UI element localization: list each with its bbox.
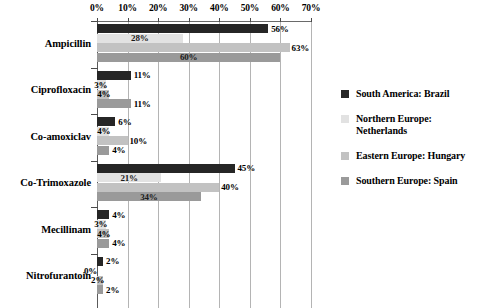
bar-value-label: 45% — [238, 163, 255, 173]
bar-value-label: 56% — [271, 24, 288, 34]
legend-swatch-icon — [341, 177, 349, 185]
legend-label: Northern Europe: Netherlands — [356, 113, 481, 137]
x-tick-label: 40% — [210, 3, 228, 13]
bar-value-label: 21% — [120, 173, 137, 183]
x-tick-label: 20% — [149, 3, 167, 13]
bar — [97, 99, 131, 108]
x-axis-rule — [97, 21, 311, 22]
bar — [97, 146, 109, 155]
bar-value-label: 6% — [118, 117, 131, 127]
bar — [97, 285, 103, 294]
x-tick-label: 60% — [271, 3, 289, 13]
legend-label: South America: Brazil — [356, 88, 449, 100]
bar — [97, 164, 235, 173]
category-label: Co-Trimoxazole — [20, 177, 91, 188]
bar-value-label: 4% — [97, 89, 110, 99]
bar — [97, 136, 128, 145]
category-label: Nitrofurantoin — [26, 270, 91, 281]
legend-swatch-icon — [341, 152, 349, 160]
bar-value-label: 11% — [134, 99, 151, 109]
x-tick-label: 10% — [118, 3, 136, 13]
x-tick-label: 0% — [90, 3, 104, 13]
category-tick — [91, 21, 98, 22]
bar-value-label: 4% — [112, 210, 125, 220]
x-tick-label: 30% — [180, 3, 198, 13]
bar — [97, 183, 219, 192]
bar — [97, 257, 103, 266]
bar-value-label: 4% — [112, 145, 125, 155]
antibiotic-resistance-bar-chart: 0%10%20%30%40%50%60%70% AmpicillinCiprof… — [0, 0, 483, 308]
chart-legend: South America: BrazilNorthern Europe: Ne… — [341, 88, 481, 200]
bar — [97, 43, 290, 52]
bar-value-label: 3% — [94, 80, 107, 90]
legend-item[interactable]: Southern Europe: Spain — [341, 175, 481, 187]
bar-value-label: 4% — [97, 126, 110, 136]
category-label: Ampicillin — [45, 37, 91, 48]
legend-item[interactable]: South America: Brazil — [341, 88, 481, 100]
legend-label: Eastern Europe: Hungary — [356, 150, 465, 162]
category-tick — [91, 254, 98, 255]
category-tick — [91, 207, 98, 208]
x-tick-label: 70% — [302, 3, 320, 13]
bar-value-label: 0% — [84, 266, 97, 276]
bar-value-label: 3% — [94, 219, 107, 229]
bar-value-label: 2% — [91, 275, 104, 285]
gridline — [311, 22, 312, 308]
category-label: Co-amoxiclav — [30, 130, 91, 141]
bar-value-label: 60% — [180, 52, 197, 62]
bar — [97, 117, 115, 126]
bar-value-label: 4% — [112, 238, 125, 248]
bar-value-label: 2% — [106, 256, 119, 266]
bar — [97, 210, 109, 219]
bar — [97, 71, 131, 80]
bar — [97, 239, 109, 248]
bar — [97, 24, 268, 33]
category-tick — [91, 161, 98, 162]
category-tick — [91, 114, 98, 115]
bar-value-label: 63% — [292, 43, 309, 53]
legend-swatch-icon — [341, 90, 349, 98]
bar-value-label: 10% — [130, 136, 147, 146]
legend-swatch-icon — [341, 115, 349, 123]
legend-item[interactable]: Eastern Europe: Hungary — [341, 150, 481, 162]
bar-value-label: 4% — [97, 229, 110, 239]
x-tick-label: 50% — [241, 3, 259, 13]
bar-value-label: 34% — [140, 192, 157, 202]
legend-label: Southern Europe: Spain — [356, 175, 458, 187]
legend-item[interactable]: Northern Europe: Netherlands — [341, 113, 481, 137]
bar-value-label: 28% — [131, 33, 148, 43]
category-label: Mecillinam — [41, 223, 91, 234]
category-label: Ciprofloxacin — [31, 84, 91, 95]
bar-value-label: 2% — [106, 285, 119, 295]
category-tick — [91, 68, 98, 69]
gridline — [280, 22, 281, 308]
bar-value-label: 40% — [221, 182, 238, 192]
bar-value-label: 11% — [134, 70, 151, 80]
